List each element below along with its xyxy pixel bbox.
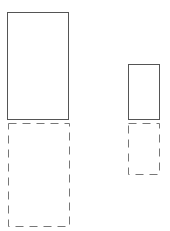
left-dashed-box [9, 124, 70, 227]
right-solid-box [129, 65, 160, 120]
right-dashed-box [129, 124, 160, 175]
left-solid-box [8, 13, 69, 120]
diagram-canvas [0, 0, 170, 231]
